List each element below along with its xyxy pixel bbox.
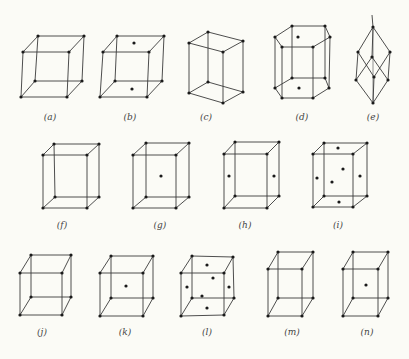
panel-label-n: (n): [361, 327, 374, 337]
lattice-panel-m: (m): [266, 250, 314, 337]
panel-label-b: (b): [124, 112, 137, 122]
corner-point: [311, 96, 314, 99]
corner-point: [311, 205, 314, 208]
corner-point: [241, 90, 244, 93]
corner-point: [328, 35, 331, 38]
corner-point: [187, 91, 190, 94]
panel-label-g: (g): [154, 220, 167, 230]
panel-label-c: (c): [200, 112, 213, 122]
corner-point: [265, 206, 268, 209]
corner-point: [341, 314, 344, 317]
centered-point: [358, 174, 361, 177]
corner-point: [18, 271, 21, 274]
corner-point: [311, 250, 314, 253]
centered-point: [227, 174, 230, 177]
corner-point: [53, 195, 56, 198]
corner-point: [179, 314, 182, 317]
lattice-panel-k: (k): [98, 254, 154, 337]
corner-point: [233, 140, 236, 143]
corner-point: [276, 250, 279, 253]
corner-point: [371, 25, 374, 28]
corner-point: [29, 253, 32, 256]
corner-point: [322, 194, 325, 197]
corner-point: [98, 314, 101, 317]
corner-point: [266, 314, 269, 317]
corner-point: [300, 267, 303, 270]
lattice-panel-e: (e): [354, 15, 391, 122]
corner-point: [21, 50, 24, 53]
corner-point: [160, 79, 163, 82]
corner-point: [221, 50, 224, 53]
lattice-panel-g: (g): [131, 141, 190, 230]
panel-label-a: (a): [44, 112, 57, 122]
corner-point: [280, 96, 283, 99]
corner-point: [80, 79, 83, 82]
corner-point: [300, 314, 303, 317]
corner-point: [356, 50, 359, 53]
centered-point: [315, 176, 318, 179]
corner-point: [141, 271, 144, 274]
corner-point: [85, 153, 88, 156]
corner-point: [109, 296, 112, 299]
corner-point: [151, 254, 154, 257]
corner-point: [351, 250, 354, 253]
lattice-panel-d: (d): [273, 24, 331, 122]
lattice-panel-b: (b): [98, 34, 165, 122]
corner-point: [276, 296, 279, 299]
corner-point: [41, 153, 44, 156]
corner-point: [273, 86, 276, 89]
corner-point: [60, 313, 63, 316]
corner-point: [187, 141, 190, 144]
corner-point: [162, 34, 165, 37]
centered-point: [364, 283, 367, 286]
corner-point: [273, 35, 276, 38]
corner-point: [222, 152, 225, 155]
corner-point: [311, 152, 314, 155]
corner-point: [113, 79, 116, 82]
corner-point: [69, 253, 72, 256]
corner-point: [85, 206, 88, 209]
corner-point: [241, 39, 244, 42]
lattice-panel-c: (c): [187, 30, 244, 122]
corner-point: [232, 296, 235, 299]
lattice-panel-j: (j): [18, 253, 72, 337]
centered-point: [297, 86, 300, 89]
corner-point: [190, 296, 193, 299]
corner-point: [179, 271, 182, 274]
corner-point: [388, 50, 391, 53]
centered-point: [185, 285, 188, 288]
centered-point: [159, 174, 162, 177]
corner-point: [115, 34, 118, 37]
corner-point: [323, 24, 326, 27]
corner-point: [33, 79, 36, 82]
corner-point: [386, 296, 389, 299]
centered-point: [132, 41, 135, 44]
centered-point: [336, 146, 339, 149]
corner-point: [141, 314, 144, 317]
panel-label-k: (k): [119, 327, 132, 337]
corner-point: [65, 95, 68, 98]
corner-point: [376, 267, 379, 270]
corner-point: [109, 254, 112, 257]
panel-label-l: (l): [202, 327, 212, 337]
corner-point: [206, 30, 209, 33]
corner-point: [365, 194, 368, 197]
centered-point: [337, 200, 340, 203]
corner-point: [82, 34, 85, 37]
corner-point: [174, 153, 177, 156]
corner-point: [18, 313, 21, 316]
centered-point: [124, 284, 127, 287]
corner-point: [131, 206, 134, 209]
lattice-panel-h: (h): [222, 140, 280, 230]
corner-point: [371, 101, 374, 104]
corner-point: [187, 41, 190, 44]
corner-point: [231, 255, 234, 258]
corner-point: [98, 95, 101, 98]
corner-point: [351, 296, 354, 299]
corner-point: [370, 55, 373, 58]
lattice-panel-n: (n): [341, 250, 389, 337]
corner-point: [60, 271, 63, 274]
corner-point: [151, 296, 154, 299]
corner-point: [290, 76, 293, 79]
corner-point: [206, 80, 209, 83]
